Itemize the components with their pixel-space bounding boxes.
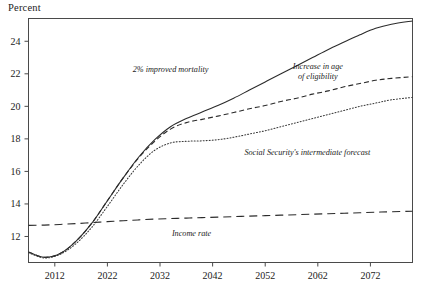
y-tick-label: 22 [11,68,21,79]
y-tick-label: 20 [11,101,21,112]
y-tick-label: 14 [11,198,21,209]
y-tick-label: 24 [11,36,21,47]
series-line [29,211,413,225]
x-tick-label: 2042 [203,270,223,281]
y-tick-label: 18 [11,133,21,144]
annotation-improved-mortality: 2% improved mortality [133,65,209,74]
plot-frame [29,19,413,263]
annotation-income-rate: Income rate [171,229,212,238]
series-line [29,97,413,258]
y-tick-label: 16 [11,166,21,177]
x-axis-tick-labels: 2012202220322042205220622072 [45,270,381,281]
series-line [29,21,413,257]
y-axis-tick-labels: 12141618202224 [11,36,21,242]
x-tick-label: 2032 [150,270,170,281]
x-tick-label: 2022 [97,270,117,281]
plot-border [29,19,413,263]
annotation-increase-age-line1: Increase in age [292,62,344,71]
annotation-ss-intermediate-forecast: Social Security's intermediate forecast [244,148,371,157]
x-tick-label: 2052 [255,270,275,281]
annotation-increase-age-line2: of eligibility [298,72,338,81]
x-tick-label: 2012 [45,270,65,281]
data-series [29,21,413,258]
x-tick-label: 2062 [308,270,328,281]
y-tick-label: 12 [11,231,21,242]
chart-container: Percent 2012202220322042205220622072 121… [0,0,430,288]
x-tick-label: 2072 [360,270,380,281]
line-chart-plot: 2012202220322042205220622072 12141618202… [0,0,430,288]
